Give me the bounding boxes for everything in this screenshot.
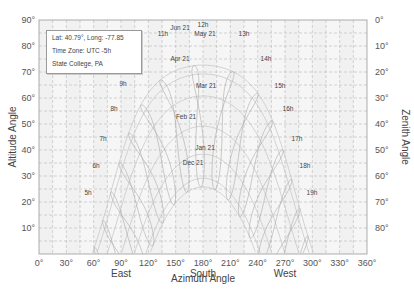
curve-label: 16h bbox=[283, 105, 294, 112]
y-tick: 20° bbox=[21, 197, 35, 207]
curve-label: 15h bbox=[275, 82, 286, 89]
y-tick: 40° bbox=[21, 145, 35, 155]
info-time-zone: Time Zone: UTC -5h bbox=[47, 44, 141, 57]
y2-tick: 80° bbox=[375, 223, 389, 233]
y-tick: 70° bbox=[21, 67, 35, 77]
x-tick: 0° bbox=[35, 258, 44, 268]
curve-label: May 21 bbox=[194, 30, 216, 38]
y2-tick: 10° bbox=[375, 41, 389, 51]
y2-tick: 0° bbox=[375, 15, 384, 25]
x-tick: 30° bbox=[60, 258, 74, 268]
curve-label: 17h bbox=[292, 135, 303, 142]
x-tick: 180° bbox=[194, 258, 213, 268]
curve-label: Jan 21 bbox=[195, 144, 215, 151]
y2-tick: 20° bbox=[375, 67, 389, 77]
x-tick: 360° bbox=[358, 258, 377, 268]
x-tick: 240° bbox=[248, 258, 267, 268]
curve-label: Dec 21 bbox=[183, 159, 204, 166]
y-tick: 80° bbox=[21, 41, 35, 51]
curve-label: 13h bbox=[239, 30, 250, 37]
x-tick: 330° bbox=[330, 258, 349, 268]
y-tick: 90° bbox=[21, 15, 35, 25]
curve-label: 9h bbox=[119, 80, 127, 87]
y-tick: 30° bbox=[21, 171, 35, 181]
curve-label: Apr 21 bbox=[170, 55, 190, 63]
info-city: State College, PA bbox=[47, 57, 141, 70]
location-info-box: Lat: 40.79°, Long: -77.85 Time Zone: UTC… bbox=[46, 30, 142, 74]
x-tick: 60° bbox=[87, 258, 101, 268]
y-tick: 60° bbox=[21, 93, 35, 103]
direction-label: West bbox=[274, 268, 297, 279]
x-tick: 210° bbox=[221, 258, 240, 268]
curve-label: 5h bbox=[84, 189, 92, 196]
y2-tick: 30° bbox=[375, 93, 389, 103]
curve-label: 6h bbox=[92, 162, 100, 169]
x-tick: 90° bbox=[114, 258, 128, 268]
x-tick: 300° bbox=[303, 258, 322, 268]
y2-tick: 70° bbox=[375, 197, 389, 207]
curve-label: 18h bbox=[300, 162, 311, 169]
y2-tick: 40° bbox=[375, 119, 389, 129]
y2-tick: 50° bbox=[375, 145, 389, 155]
x-axis-label: Azimuth Angle bbox=[171, 273, 235, 284]
curve-label: Feb 21 bbox=[176, 113, 197, 120]
y2-axis-label: Zenith Angle bbox=[400, 109, 411, 165]
curve-label: Mar 21 bbox=[196, 82, 217, 89]
curve-label: 14h bbox=[261, 55, 272, 62]
curve-label: 19h bbox=[307, 189, 318, 196]
x-tick: 150° bbox=[166, 258, 185, 268]
x-tick: 120° bbox=[139, 258, 158, 268]
curve-label: Jun 21 bbox=[170, 24, 190, 31]
y-tick: 10° bbox=[21, 223, 35, 233]
x-tick: 270° bbox=[276, 258, 295, 268]
curve-label: 12h bbox=[198, 21, 209, 28]
info-lat-long: Lat: 40.79°, Long: -77.85 bbox=[47, 31, 141, 44]
y-axis-label: Altitude Angle bbox=[7, 106, 18, 168]
y2-tick: 60° bbox=[375, 171, 389, 181]
direction-label: East bbox=[111, 268, 131, 279]
curve-label: 7h bbox=[99, 135, 107, 142]
curve-label: 8h bbox=[110, 105, 118, 112]
y-tick: 50° bbox=[21, 119, 35, 129]
curve-label: 11h bbox=[158, 30, 169, 37]
